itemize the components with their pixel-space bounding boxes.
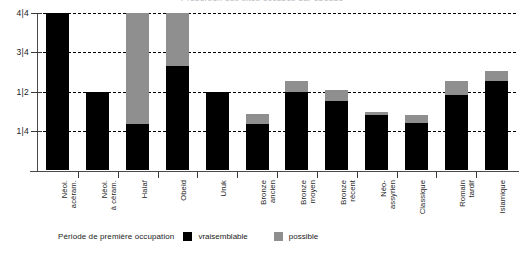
x-axis-line [30, 171, 519, 172]
bar-column [46, 13, 69, 170]
x-axis-label: Néol. acéram. [61, 180, 78, 232]
plot-area [38, 13, 516, 170]
legend-title: Période de première occupation [58, 232, 174, 241]
bar-segment-possible [246, 114, 269, 125]
legend-label-vraisemblable: vraisemblable [198, 232, 247, 241]
y-axis-tick [31, 52, 42, 53]
bar-segment-vraisemblable [365, 115, 388, 170]
bar-segment-vraisemblable [285, 92, 308, 171]
x-axis-label: Halaf [141, 180, 150, 232]
bar-column [445, 81, 468, 170]
bar-segment-vraisemblable [166, 66, 189, 170]
bar-segment-vraisemblable [405, 123, 428, 170]
bar-segment-vraisemblable [246, 124, 269, 170]
x-axis-label: Bronze moyen [300, 180, 317, 232]
bar-column [206, 92, 229, 171]
bar-segment-possible [126, 13, 149, 124]
x-axis-label: Néol. à céram. [101, 180, 118, 232]
y-axis-label: 4|4 [0, 8, 29, 18]
bar-column [405, 115, 428, 170]
bar-segment-vraisemblable [325, 101, 348, 170]
legend-item-possible: possible [274, 232, 318, 241]
bar-column [325, 90, 348, 170]
bar-column [365, 112, 388, 170]
y-axis-line [37, 13, 38, 172]
bar-column [485, 71, 508, 170]
bar-segment-vraisemblable [445, 95, 468, 170]
gridline [38, 52, 516, 53]
x-axis-label: Bronze ancien [260, 180, 277, 232]
bar-segment-possible [325, 90, 348, 101]
legend-swatch-gray [274, 232, 283, 241]
bar-segment-vraisemblable [46, 13, 69, 170]
x-axis-tick [197, 171, 198, 178]
y-axis-tick [31, 13, 42, 14]
x-axis-tick [357, 171, 358, 178]
bar-segment-vraisemblable [126, 124, 149, 170]
legend-swatch-black [183, 232, 192, 241]
legend-label-possible: possible [289, 232, 318, 241]
x-axis-label: Classique [419, 180, 428, 232]
bar-segment-possible [485, 71, 508, 80]
bar-segment-possible [166, 13, 189, 66]
gridline [38, 13, 516, 14]
bar-segment-possible [285, 81, 308, 92]
x-axis-label: Bronze récent [340, 180, 357, 232]
y-axis-label: 1|4 [0, 126, 29, 136]
bar-column [166, 13, 189, 170]
x-axis-tick [158, 171, 159, 178]
x-axis-label: Islamique [499, 180, 508, 232]
bar-segment-vraisemblable [485, 81, 508, 170]
y-axis-tick [31, 131, 42, 132]
bar-column [86, 92, 109, 171]
x-axis-label: Uruk [220, 180, 229, 232]
bar-segment-vraisemblable [86, 92, 109, 171]
bar-column [285, 81, 308, 170]
chart-title: Proportion des sites occupés par époque [0, 0, 525, 1]
y-axis-label: 3|4 [0, 47, 29, 57]
x-axis-tick [436, 171, 437, 178]
x-axis-tick [118, 171, 119, 178]
bar-column [126, 13, 149, 170]
bar-segment-possible [445, 81, 468, 95]
x-axis-tick [237, 171, 238, 178]
x-axis-tick [476, 171, 477, 178]
x-axis-label: Néo- assyrien [380, 180, 397, 232]
y-axis-tick [31, 92, 42, 93]
x-axis-tick [277, 171, 278, 178]
x-axis-tick [78, 171, 79, 178]
bar-segment-possible [405, 115, 428, 123]
x-axis-label: Romain tardif [459, 180, 476, 232]
x-axis-tick [317, 171, 318, 178]
legend-item-vraisemblable: vraisemblable [183, 232, 247, 241]
bar-segment-vraisemblable [206, 92, 229, 171]
x-axis-label: Obeid [180, 180, 189, 232]
bar-column [246, 114, 269, 171]
chart-legend: Période de première occupation vraisembl… [58, 232, 344, 241]
x-axis-tick [397, 171, 398, 178]
y-axis-label: 1|2 [0, 87, 29, 97]
